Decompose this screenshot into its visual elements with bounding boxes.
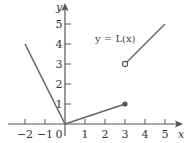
y-tick-label: 3 xyxy=(56,58,63,71)
x-ticks xyxy=(25,119,165,124)
segment-middle xyxy=(65,104,125,124)
x-axis-label: x xyxy=(178,128,185,141)
y-tick-label: 1 xyxy=(56,98,63,111)
x-tick-label: 2 xyxy=(102,128,109,141)
y-tick-label: 2 xyxy=(56,78,63,91)
x-tick-label: 4 xyxy=(142,128,149,141)
x-tick-label: −2 xyxy=(17,128,33,141)
y-tick-label: 4 xyxy=(56,38,63,51)
x-tick-label: −1 xyxy=(37,128,53,141)
x-tick-label: 1 xyxy=(82,128,89,141)
y-axis-label: y xyxy=(55,1,63,14)
function-label: y = L(x) xyxy=(94,33,136,44)
y-ticks xyxy=(65,24,71,104)
y-tick-label: 5 xyxy=(56,18,63,31)
function-graph: −2 −1 0 1 2 3 4 5 x 1 2 3 4 5 y y = L(x) xyxy=(0,0,190,143)
closed-dot-marker xyxy=(122,101,127,106)
x-tick-label: 5 xyxy=(162,128,169,141)
x-tick-label: 3 xyxy=(122,128,129,141)
x-tick-label: 0 xyxy=(56,128,63,141)
open-dot-marker xyxy=(122,61,127,66)
